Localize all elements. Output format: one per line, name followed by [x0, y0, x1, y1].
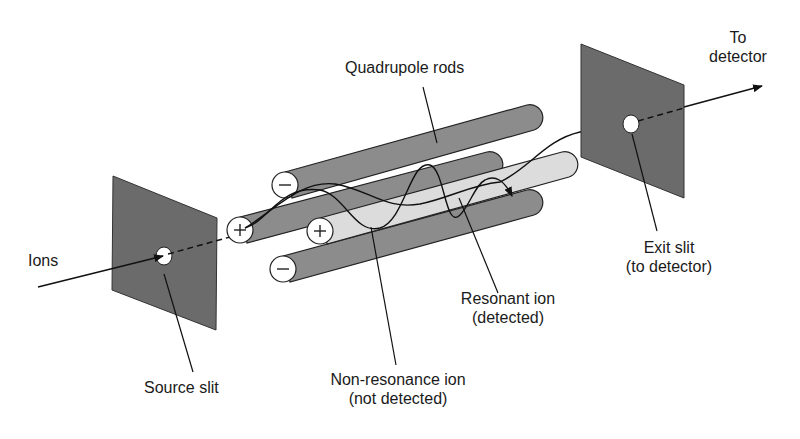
exit-slit-line2: (to detector) [614, 257, 724, 276]
ions-label: Ions [28, 251, 58, 270]
to-detector-line2: detector [693, 47, 783, 66]
quadrupole-diagram: Ions Source slit Quadrupole rods To dete… [0, 0, 800, 439]
to-detector-line1: To [693, 28, 783, 47]
non-resonance-line2: (not detected) [303, 389, 493, 408]
non-resonance-line1: Non-resonance ion [303, 370, 493, 389]
exit-slit-line1: Exit slit [614, 238, 724, 257]
exit-slit-plate [581, 44, 684, 198]
exit-slit-label: Exit slit (to detector) [614, 238, 724, 276]
source-slit-plate [112, 176, 217, 330]
non-resonance-ion-label: Non-resonance ion (not detected) [303, 370, 493, 408]
quadrupole-rods-label: Quadrupole rods [345, 58, 464, 77]
to-detector-label: To detector [693, 28, 783, 66]
source-slit-label: Source slit [144, 378, 219, 397]
resonant-ion-line1: Resonant ion [448, 289, 568, 308]
resonant-ion-label: Resonant ion (detected) [448, 289, 568, 327]
to-detector-arrow [684, 86, 762, 107]
resonant-ion-line2: (detected) [448, 308, 568, 327]
rod-middle-back-cap [227, 217, 253, 243]
